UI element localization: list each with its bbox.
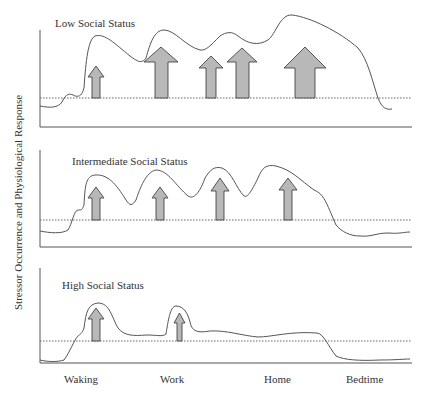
panel-low-status [40, 15, 412, 127]
panel-title-high: High Social Status [62, 279, 144, 291]
stressor-arrow-icon [227, 48, 257, 98]
stressor-arrow-icon [152, 187, 168, 220]
stressor-arrow-icon [88, 308, 104, 341]
stressor-arrow-icon [88, 187, 104, 220]
stressor-arrows [88, 178, 297, 220]
panel-title-low: Low Social Status [55, 17, 135, 29]
stressor-arrow-icon [279, 178, 297, 220]
stressor-arrow-icon [199, 56, 223, 98]
x-label-bedtime: Bedtime [346, 373, 383, 385]
x-label-work: Work [160, 373, 184, 385]
stressor-arrow-icon [284, 47, 326, 98]
x-label-waking: Waking [64, 373, 98, 385]
stressor-arrow-icon [144, 47, 178, 98]
stressor-arrow-icon [88, 66, 104, 98]
stressor-arrows [88, 47, 326, 98]
stressor-arrow-icon [174, 313, 185, 341]
stressor-arrow-icon [211, 178, 229, 220]
panel-title-intermediate: Intermediate Social Status [72, 155, 187, 167]
diagram-graphics [0, 0, 424, 396]
stress-response-diagram: Stressor Occurrence and Physiological Re… [0, 0, 424, 396]
x-label-home: Home [264, 373, 291, 385]
